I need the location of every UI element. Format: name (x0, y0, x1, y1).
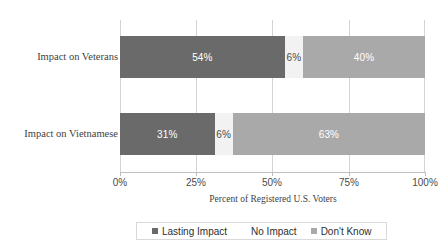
stacked-bar-chart: Impact on Veterans Impact on Vietnamese … (0, 0, 444, 250)
bar-segment-no-impact[interactable]: 6% (215, 113, 233, 155)
table-row: 31% 6% 63% (120, 113, 425, 155)
x-tick-label-100: 100% (395, 177, 444, 188)
bar-segment-label: 40% (354, 52, 374, 63)
bar-segment-label: 6% (287, 52, 302, 63)
legend-label: Lasting Impact (162, 226, 227, 237)
legend-swatch-icon (152, 228, 158, 234)
bar-segment-dont-know[interactable]: 40% (303, 36, 425, 78)
table-row: 54% 6% 40% (120, 36, 425, 78)
legend-label: No Impact (251, 226, 297, 237)
bar-segment-label: 63% (319, 129, 339, 140)
bar-segment-label: 6% (216, 129, 231, 140)
bar-segment-lasting-impact[interactable]: 31% (120, 113, 215, 155)
legend-item-dont-know[interactable]: Don't Know (311, 226, 372, 237)
plot-area: 54% 6% 40% 31% 6% 63% (120, 20, 425, 172)
x-tick-mark-25 (196, 172, 197, 176)
bar-segment-label: 54% (192, 52, 212, 63)
bar-segment-lasting-impact[interactable]: 54% (120, 36, 285, 78)
category-label-impact-on-vietnamese: Impact on Vietnamese (4, 128, 118, 140)
legend-swatch-icon (241, 228, 247, 234)
category-axis-labels: Impact on Veterans Impact on Vietnamese (0, 0, 118, 250)
x-axis-line (120, 172, 426, 173)
x-tick-label-0: 0% (90, 177, 150, 188)
bar-segment-dont-know[interactable]: 63% (233, 113, 425, 155)
legend-item-lasting-impact[interactable]: Lasting Impact (152, 226, 227, 237)
legend-label: Don't Know (321, 226, 372, 237)
legend-swatch-icon (311, 228, 317, 234)
legend: Lasting Impact No Impact Don't Know (136, 222, 387, 240)
legend-item-no-impact[interactable]: No Impact (241, 226, 297, 237)
x-tick-label-50: 50% (242, 177, 302, 188)
x-tick-mark-75 (349, 172, 350, 176)
x-tick-label-25: 25% (166, 177, 226, 188)
x-tick-mark-100 (425, 172, 426, 176)
category-label-impact-on-veterans: Impact on Veterans (4, 51, 118, 63)
bar-segment-no-impact[interactable]: 6% (285, 36, 303, 78)
x-tick-mark-0 (120, 172, 121, 176)
x-axis-title: Percent of Registered U.S. Voters (120, 194, 426, 204)
bar-segment-label: 31% (157, 129, 177, 140)
x-tick-label-75: 75% (319, 177, 379, 188)
x-tick-mark-50 (272, 172, 273, 176)
